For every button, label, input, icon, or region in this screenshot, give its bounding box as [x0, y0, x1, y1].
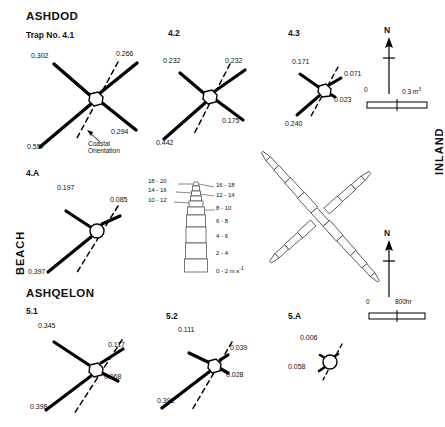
wind-class-6-8: 6 - 8	[216, 218, 228, 224]
trap-id-4-a: 4.A	[26, 168, 39, 178]
ray-nw	[180, 73, 206, 95]
scale-time-end: 800hr	[395, 298, 412, 305]
value-4-3-se: 0.023	[334, 96, 352, 103]
site-title-ashdod: ASHDOD	[26, 10, 78, 22]
trap-rose-4-3	[288, 52, 378, 142]
value-5-1-nw: 0.345	[38, 322, 56, 329]
wind-units: 0 - 2 m s-1	[216, 265, 244, 274]
beach-label: BEACH	[14, 231, 26, 275]
value-5-1-sw: 0.398	[30, 403, 48, 410]
trap-id-5-2: 5.2	[166, 311, 178, 321]
value-4-a-ne: 0.085	[110, 196, 128, 203]
enlarged-trap-glyph	[248, 145, 398, 285]
trap-id-5-1: 5.1	[26, 306, 38, 316]
value-5-2-ne: 0.039	[230, 344, 248, 351]
value-5-2-nw: 0.111	[178, 326, 194, 333]
wind-speed-legend: 18 - 20 14 - 16 10 - 12 16 - 18 12 - 14 …	[148, 178, 253, 283]
trap-hub	[90, 224, 104, 238]
value-5-2-se: 0.028	[226, 371, 244, 378]
value-4-1-se: 0.294	[111, 128, 129, 135]
trap-id-4-3: 4.3	[288, 28, 300, 38]
trap-id-4-2: 4.2	[168, 28, 180, 38]
wind-class-2-4: 2 - 4	[216, 250, 228, 256]
value-5-a-nw: 0.058	[288, 363, 306, 370]
wind-seg-14-16	[192, 191, 201, 196]
trap-hub	[89, 92, 103, 106]
value-5-2-sw: 0.391	[157, 397, 175, 404]
trap-id-5-a: 5.A	[288, 311, 301, 321]
ray-sw	[46, 376, 91, 410]
scale-time-start: 0	[366, 298, 370, 305]
trap-diagram-4-3	[288, 52, 378, 142]
ray-se	[101, 102, 136, 130]
value-4-2-ne: 0.232	[225, 57, 243, 64]
wind-seg-18-20	[193, 182, 199, 186]
value-4-2-sw: 0.442	[156, 139, 174, 146]
site-title-ashqelon: ASHQELON	[26, 287, 94, 299]
value-4-2-se: 0.175	[222, 117, 240, 124]
wind-seg-8-10	[188, 207, 205, 215]
value-5-1-se: 0.068	[104, 373, 122, 380]
trap-rose-5-a	[296, 336, 376, 406]
ray-ne	[215, 70, 245, 91]
scale-volume-start: 0	[364, 86, 368, 93]
coastal-orientation-line	[76, 206, 118, 274]
wind-seg-10-12	[189, 201, 203, 207]
value-4-a-sw: 0.397	[28, 268, 46, 275]
inland-label: INLAND	[433, 127, 445, 175]
north-label-bottom: N	[384, 228, 390, 238]
scale-time-glyph	[368, 310, 438, 324]
enlarged-trap-symbol	[248, 145, 398, 285]
value-5-1-ne: 0.117	[108, 341, 125, 348]
trap-hub	[323, 355, 337, 369]
coastal-orientation-line1: Coastal	[88, 140, 120, 147]
wind-class-14-16: 14 - 16	[148, 187, 167, 193]
value-4-1-ne: 0.266	[116, 50, 134, 57]
wind-class-10-12: 10 - 12	[148, 197, 167, 203]
value-4-3-ne: 0.071	[344, 70, 362, 77]
ray-sw	[48, 237, 91, 272]
value-4-1-sw: 0.557	[27, 143, 45, 150]
trap-subtitle: Trap No. 4.1	[26, 30, 74, 40]
wind-seg-2-4	[186, 243, 207, 259]
trap-diagram-5-2	[152, 330, 272, 425]
value-4-3-sw: 0.240	[285, 120, 303, 127]
value-4-3-nw: 0.171	[292, 58, 310, 65]
ray-nw	[300, 74, 320, 88]
wind-seg-6-8	[187, 215, 206, 227]
trap-rose-5-2	[152, 330, 272, 425]
coastal-orientation-line2: Orientation	[88, 147, 120, 154]
wind-seg-16-18	[193, 186, 200, 191]
value-4-a-nw: 0.197	[57, 184, 75, 191]
ray-sw	[297, 96, 319, 115]
wind-class-8-10: 8 - 10	[216, 205, 231, 211]
ray-ne	[329, 78, 341, 85]
trap-hub	[208, 359, 221, 373]
ray-nw	[54, 342, 92, 367]
ray-nw	[54, 64, 92, 97]
wind-class-12-14: 12 - 14	[216, 192, 235, 198]
value-5-a-ne: 0.006	[300, 334, 318, 341]
coastal-orientation-label: Coastal Orientation	[88, 140, 120, 155]
north-label-top: N	[384, 25, 390, 35]
wind-class-4-6: 4 - 6	[216, 233, 228, 239]
ray-ne	[100, 63, 137, 93]
scale-volume-glyph	[366, 99, 438, 113]
wind-seg-4-6	[186, 227, 206, 243]
wind-seg-12-14	[191, 196, 202, 201]
trap-diagram-5-a	[296, 336, 376, 406]
ray-nw	[66, 211, 92, 228]
ray-nw	[189, 353, 210, 363]
trap-hub	[89, 363, 103, 377]
ray-sw	[164, 103, 205, 139]
ray-sw	[319, 367, 325, 371]
scale-volume-end: 0.3 m3	[402, 86, 421, 95]
wind-class-16-18: 16 - 18	[216, 182, 235, 188]
wind-class-18-20: 18 - 20	[148, 178, 167, 184]
wind-seg-0-2	[185, 259, 208, 272]
value-4-1-nw: 0.302	[31, 52, 49, 59]
value-4-2-nw: 0.232	[163, 57, 181, 64]
trap-hub	[203, 90, 217, 104]
north-arrow-bottom-glyph	[378, 239, 408, 301]
